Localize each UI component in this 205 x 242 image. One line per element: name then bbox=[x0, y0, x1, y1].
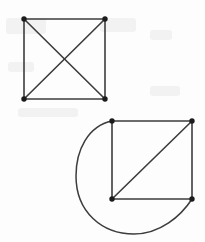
figure-container bbox=[0, 0, 205, 242]
graph-layer bbox=[21, 16, 194, 234]
scan-smudge-4 bbox=[8, 62, 34, 72]
graph-figure bbox=[0, 0, 205, 242]
top-graph-vertex-bottom-right bbox=[102, 96, 107, 101]
top-graph-vertex-bottom-left bbox=[21, 96, 26, 101]
complete-graph-k4 bbox=[21, 16, 107, 101]
top-graph-vertex-top-right bbox=[102, 16, 107, 21]
scan-smudge-6 bbox=[18, 108, 78, 117]
bottom-graph-vertex-bottom-left bbox=[109, 196, 114, 201]
bottom-graph-vertex-top-right bbox=[189, 118, 194, 123]
square-with-diagonal-and-loop-edge bbox=[76, 118, 195, 234]
bottom-graph-edge-diagonal-bl-tr bbox=[112, 121, 192, 199]
bottom-graph-vertex-bottom-right bbox=[189, 196, 194, 201]
top-graph-vertex-top-left bbox=[21, 16, 26, 21]
scan-smudge-3 bbox=[150, 30, 172, 40]
scan-smudge-5 bbox=[150, 86, 180, 96]
scan-artifact-layer bbox=[6, 18, 180, 117]
bottom-graph-vertex-top-left bbox=[109, 118, 114, 123]
